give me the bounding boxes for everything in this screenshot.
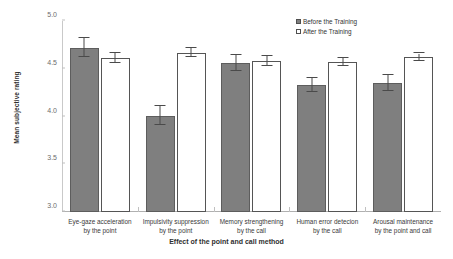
legend-swatch-before bbox=[296, 19, 301, 24]
bar-after bbox=[404, 57, 433, 212]
error-bar-cap-bottom bbox=[382, 90, 393, 91]
legend-label: After the Training bbox=[303, 27, 352, 37]
error-bar-cap-bottom bbox=[337, 65, 348, 66]
category-label-line1: Memory strengthening bbox=[220, 218, 284, 225]
error-bar-cap-bottom bbox=[186, 56, 197, 57]
error-bar-cap-top bbox=[382, 74, 393, 75]
x-axis-title: Effect of the point and call method bbox=[0, 238, 453, 245]
category-label-line1: Human error detecion bbox=[296, 218, 358, 225]
error-bar-cap-top bbox=[413, 52, 424, 53]
error-bar-cap-top bbox=[186, 47, 197, 48]
bar-group bbox=[289, 21, 365, 212]
x-axis-category-label: Eye-gaze accelerationby the point bbox=[62, 217, 138, 235]
error-bar bbox=[235, 55, 236, 70]
error-bar bbox=[311, 78, 312, 91]
bar-group bbox=[214, 21, 290, 212]
error-bar-cap-top bbox=[79, 37, 90, 38]
bar-group bbox=[365, 21, 441, 212]
y-axis-tick-label: 3.5 bbox=[6, 154, 62, 161]
error-bar-cap-bottom bbox=[261, 65, 272, 66]
legend-swatch-after bbox=[296, 29, 301, 34]
error-bar bbox=[160, 106, 161, 125]
category-label-line2: by the point and call bbox=[365, 226, 441, 235]
category-label-line2: by the point bbox=[62, 226, 138, 235]
category-label-line2: by the call bbox=[214, 226, 290, 235]
category-label-line1: Arousal maintenance bbox=[373, 218, 433, 225]
bar-before bbox=[70, 48, 99, 212]
category-label-line2: by the point bbox=[138, 226, 214, 235]
legend-label: Before the Training bbox=[303, 17, 357, 27]
error-bar-cap-bottom bbox=[413, 60, 424, 61]
error-bar-cap-bottom bbox=[79, 56, 90, 57]
y-axis-tick-label: 5.0 bbox=[6, 11, 62, 18]
x-axis-group-separator bbox=[365, 207, 366, 212]
error-bar-cap-bottom bbox=[155, 124, 166, 125]
error-bar bbox=[387, 75, 388, 90]
bar-after bbox=[101, 58, 130, 212]
error-bar-cap-top bbox=[337, 57, 348, 58]
bar-after bbox=[177, 53, 206, 212]
error-bar-cap-top bbox=[230, 54, 241, 55]
y-axis-tick-label: 3.0 bbox=[6, 202, 62, 209]
bar-group bbox=[62, 21, 138, 212]
error-bar-cap-bottom bbox=[110, 62, 121, 63]
error-bar-cap-bottom bbox=[306, 91, 317, 92]
bar-before bbox=[297, 85, 326, 212]
x-axis-category-label: Memory strengtheningby the call bbox=[214, 217, 290, 235]
category-label-line1: Impulsivity suppression bbox=[143, 218, 209, 225]
error-bar-cap-top bbox=[261, 55, 272, 56]
bar-before bbox=[146, 116, 175, 212]
x-axis-category-label: Impulsivity suppressionby the point bbox=[138, 217, 214, 235]
bar-before bbox=[221, 63, 250, 212]
error-bar-cap-top bbox=[306, 77, 317, 78]
category-label-line2: by the call bbox=[289, 226, 365, 235]
category-label-line1: Eye-gaze acceleration bbox=[68, 218, 131, 225]
legend-item: Before the Training bbox=[296, 17, 357, 27]
error-bar-cap-top bbox=[110, 52, 121, 53]
x-axis-group-separator bbox=[214, 207, 215, 212]
plot-area: 3.03.54.04.55.0 bbox=[62, 21, 441, 212]
bar-group bbox=[138, 21, 214, 212]
chart-legend: Before the TrainingAfter the Training bbox=[296, 17, 357, 36]
y-axis-tick-label: 4.0 bbox=[6, 106, 62, 113]
legend-item: After the Training bbox=[296, 27, 357, 37]
bar-after bbox=[252, 61, 281, 212]
bar-after bbox=[328, 62, 357, 212]
y-axis-tick-label: 4.5 bbox=[6, 58, 62, 65]
bar-before bbox=[373, 83, 402, 212]
x-axis-group-separator bbox=[138, 207, 139, 212]
x-axis-category-label: Arousal maintenanceby the point and call bbox=[365, 217, 441, 235]
x-axis-category-label: Human error detecionby the call bbox=[289, 217, 365, 235]
error-bar bbox=[84, 38, 85, 57]
error-bar-cap-top bbox=[155, 105, 166, 106]
error-bar-cap-bottom bbox=[230, 70, 241, 71]
x-axis-group-separator bbox=[289, 207, 290, 212]
bar-chart-figure: Mean subjective rating 3.03.54.04.55.0 E… bbox=[0, 0, 453, 259]
